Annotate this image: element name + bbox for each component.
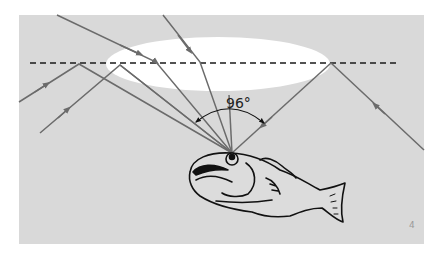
snells-window-diagram: 96° 4: [0, 0, 445, 266]
page-marker: 4: [409, 220, 415, 230]
fish-eye-pupil: [230, 155, 235, 160]
snells-window: [106, 37, 330, 91]
angle-label: 96°: [226, 95, 251, 111]
